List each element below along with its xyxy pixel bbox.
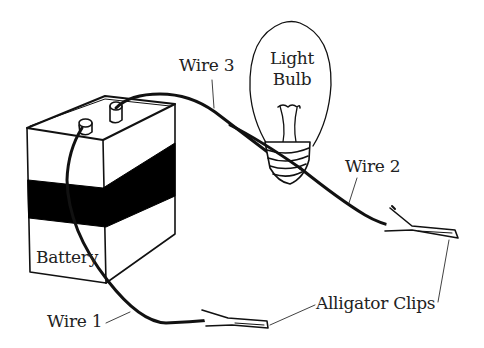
wire-2 bbox=[300, 168, 400, 228]
label-light: Light bbox=[266, 50, 318, 67]
leader-clip-right bbox=[438, 240, 449, 302]
label-battery: Battery bbox=[36, 249, 98, 266]
label-bulb: Bulb bbox=[266, 71, 318, 88]
alligator-clip-left bbox=[202, 310, 268, 328]
leader-wire3 bbox=[212, 80, 214, 108]
label-alligator-clips: Alligator Clips bbox=[316, 295, 435, 312]
leader-clip-left bbox=[270, 305, 315, 325]
alligator-clip-right bbox=[385, 206, 458, 238]
wire-1 bbox=[67, 128, 212, 323]
label-wire-3: Wire 3 bbox=[179, 57, 234, 74]
label-wire-2: Wire 2 bbox=[345, 158, 400, 175]
leader-wire1 bbox=[106, 312, 130, 323]
wire-3 bbox=[116, 94, 278, 160]
leader-wire2 bbox=[349, 178, 357, 203]
label-wire-1: Wire 1 bbox=[47, 313, 102, 330]
circuit-diagram: Wire 3 Light Bulb Wire 2 Battery Wire 1 … bbox=[0, 0, 484, 348]
